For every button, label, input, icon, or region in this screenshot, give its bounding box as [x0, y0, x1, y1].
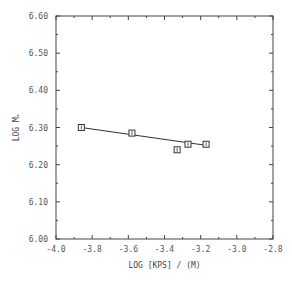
- x-tick-label: -3.2: [191, 245, 210, 254]
- x-axis-title: LOG [KPS] / (M): [128, 261, 200, 270]
- x-tick-label: -3.4: [155, 245, 174, 254]
- y-tick-label: 6.00: [29, 235, 48, 244]
- x-tick-label: -3.8: [83, 245, 102, 254]
- y-tick-label: 6.10: [29, 198, 48, 207]
- y-tick-label: 6.40: [29, 86, 48, 95]
- y-axis-title: LOG M*: [12, 113, 22, 141]
- plot-frame: [56, 16, 273, 239]
- y-tick-label: 6.60: [29, 12, 48, 21]
- x-tick-label: -2.8: [263, 245, 282, 254]
- y-axis-subscript: *: [15, 113, 22, 117]
- y-tick-label: 6.50: [29, 49, 48, 58]
- x-tick-label: -3.6: [119, 245, 138, 254]
- x-tick-label: -3.0: [227, 245, 246, 254]
- y-tick-label: 6.20: [29, 161, 48, 170]
- y-tick-label: 6.30: [29, 124, 48, 133]
- x-tick-label: -4.0: [46, 245, 65, 254]
- chart: -4.0-3.8-3.6-3.4-3.2-3.0-2.86.006.106.20…: [0, 0, 292, 284]
